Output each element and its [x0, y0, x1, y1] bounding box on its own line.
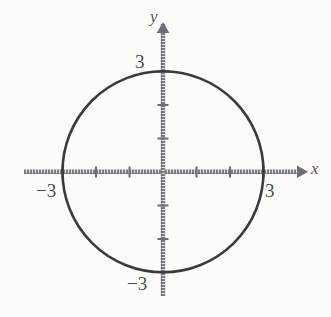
x-tick-label-positive-3: 3 — [265, 181, 275, 200]
y-axis-label: y — [150, 8, 158, 25]
x-axis-label: x — [311, 160, 319, 177]
figure-canvas: y x 3 −3 −3 3 — [0, 0, 331, 317]
x-axis-arrow-icon — [297, 166, 308, 179]
y-tick-label-negative-3: −3 — [127, 274, 147, 293]
y-axis — [157, 22, 170, 296]
x-tick-label-negative-3: −3 — [36, 181, 56, 200]
y-axis-line — [161, 24, 165, 296]
y-tick-label-positive-3: 3 — [135, 52, 145, 71]
coordinate-plane-plot — [0, 0, 331, 317]
y-axis-arrow-icon — [157, 22, 170, 33]
x-axis — [24, 166, 308, 179]
